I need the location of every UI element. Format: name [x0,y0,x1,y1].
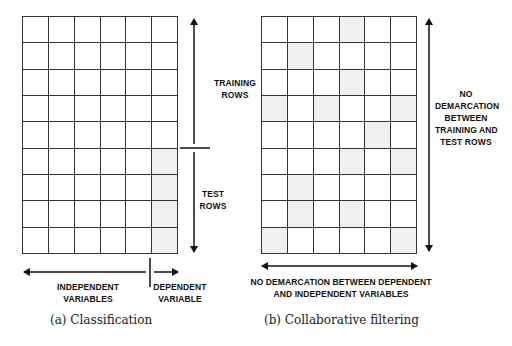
training-rows-label: TRAINING ROWS [210,77,260,101]
independent-variables-label: INDEPENDENT VARIABLES [48,281,128,305]
test-rows-label: TEST ROWS [198,188,228,212]
no-demarcation-rows-label: NO DEMARCATION BETWEEN TRAINING AND TEST… [435,88,497,148]
caption-b: (b) Collaborative filtering [264,313,419,327]
no-demarcation-cols-label: NO DEMARCATION BETWEEN DEPENDENT AND IND… [250,276,432,300]
dependent-variable-label: DEPENDENT VARIABLE [152,281,208,305]
caption-a: (a) Classification [50,313,152,327]
